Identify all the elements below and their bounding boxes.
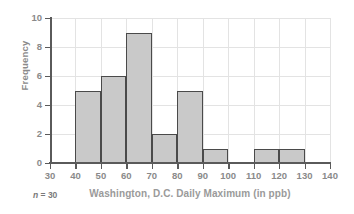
x-axis-tick (75, 164, 76, 169)
x-axis-tick (203, 164, 204, 169)
gridline-horizontal (50, 18, 330, 19)
y-axis-tick-label: 10 (14, 12, 42, 23)
y-axis-tick (45, 76, 50, 77)
gridline-vertical (254, 18, 255, 163)
gridline-horizontal (50, 47, 330, 48)
x-axis-tick (50, 164, 51, 169)
gridline-vertical (305, 18, 306, 163)
y-axis-tick-label: 8 (14, 41, 42, 52)
x-axis-tick (228, 164, 229, 169)
y-axis-line (50, 17, 52, 164)
y-axis-tick (45, 47, 50, 48)
y-axis-tick (45, 105, 50, 106)
x-axis-tick (330, 164, 331, 169)
gridline-vertical (279, 18, 280, 163)
x-axis-line (49, 162, 331, 164)
x-axis-tick (279, 164, 280, 169)
x-axis-title: Washington, D.C. Daily Maximum (in ppb) (50, 188, 330, 199)
y-axis-tick-label: 6 (14, 70, 42, 81)
y-axis-tick-label: 2 (14, 128, 42, 139)
x-axis-tick (177, 164, 178, 169)
x-axis-tick-label: 140 (315, 170, 345, 181)
sample-size-value: = 30 (38, 190, 57, 200)
x-axis-tick (152, 164, 153, 169)
y-axis-tick (45, 18, 50, 19)
y-axis-tick (45, 134, 50, 135)
gridline-horizontal (50, 76, 330, 77)
histogram-bar (101, 76, 126, 163)
histogram-bar (126, 33, 151, 164)
sample-size-note: n = 30 (33, 190, 57, 200)
gridline-vertical (330, 18, 331, 163)
histogram-bar (279, 149, 304, 164)
plot-area (50, 18, 330, 163)
x-axis-tick (126, 164, 127, 169)
y-axis-tick-label: 0 (14, 157, 42, 168)
gridline-vertical (203, 18, 204, 163)
x-axis-tick (305, 164, 306, 169)
y-axis-tick-label: 4 (14, 99, 42, 110)
x-axis-tick (254, 164, 255, 169)
histogram-bar (75, 91, 100, 164)
x-axis-tick (101, 164, 102, 169)
gridline-vertical (228, 18, 229, 163)
histogram-bar (203, 149, 228, 164)
histogram-bar (177, 91, 202, 164)
histogram-bar (254, 149, 279, 164)
y-axis-tick (45, 163, 50, 164)
histogram-figure: Frequency Washington, D.C. Daily Maximum… (0, 0, 354, 214)
histogram-bar (152, 134, 177, 163)
